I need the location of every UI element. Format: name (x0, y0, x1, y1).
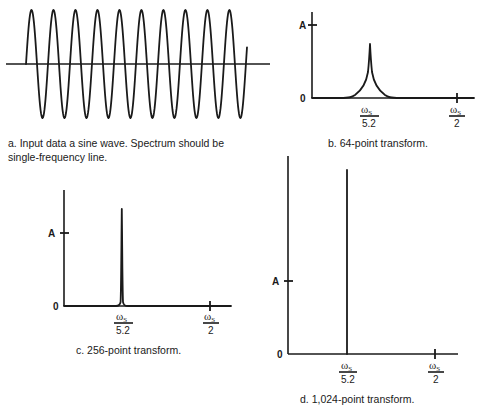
svg-text:ωS: ωS (361, 103, 372, 117)
caption-a-line2: single-frequency line. (8, 150, 107, 164)
chart-c-a-label: A (48, 228, 55, 239)
caption-d: d. 1,024-point transform. (300, 392, 414, 406)
chart-c-xlabel-fs-over-2: ωS 2 (203, 310, 219, 336)
chart-b-a-label: A (299, 20, 306, 31)
svg-text:ωS: ωS (450, 103, 461, 117)
caption-a-line1: a. Input data a sine wave. Spectrum shou… (8, 136, 224, 150)
svg-text:2: 2 (433, 374, 439, 385)
svg-text:5.2: 5.2 (362, 118, 376, 129)
chart-b-xlabel-fs-over-5-2: ωS 5.2 (360, 103, 379, 129)
chart-c-256-point: A 0 ωS 5.2 ωS 2 (48, 190, 231, 336)
chart-d-xlabel-fs-over-2: ωS 2 (428, 359, 444, 385)
figure-canvas: A 0 ωS 5.2 ωS 2 A 0 ωS 5.2 ωS 2 (0, 0, 482, 415)
chart-b-64-point: A 0 ωS 5.2 ωS 2 (299, 12, 474, 129)
svg-text:5.2: 5.2 (116, 325, 130, 336)
svg-text:ωS: ωS (116, 310, 127, 324)
chart-d-a-label: A (272, 276, 279, 287)
chart-a-sine-wave (6, 10, 270, 118)
chart-b-spectrum-peak (312, 44, 474, 98)
chart-d-xlabel-fs-over-5-2: ωS 5.2 (339, 359, 357, 385)
svg-text:2: 2 (454, 118, 460, 129)
svg-text:ωS: ωS (429, 359, 440, 373)
caption-c: c. 256-point transform. (76, 343, 181, 357)
svg-text:ωS: ωS (341, 359, 352, 373)
chart-d-zero-label: 0 (277, 349, 283, 360)
chart-c-zero-label: 0 (53, 301, 59, 312)
caption-b: b. 64-point transform. (328, 136, 428, 150)
chart-d-1024-point: A 0 ωS 5.2 ωS 2 (272, 156, 458, 385)
chart-c-xlabel-fs-over-5-2: ωS 5.2 (114, 310, 133, 336)
svg-text:2: 2 (208, 325, 214, 336)
chart-b-xlabel-fs-over-2: ωS 2 (449, 103, 465, 129)
chart-b-zero-label: 0 (300, 93, 306, 104)
chart-c-spectrum-peak (64, 209, 231, 306)
svg-text:ωS: ωS (204, 310, 215, 324)
svg-text:5.2: 5.2 (341, 374, 355, 385)
